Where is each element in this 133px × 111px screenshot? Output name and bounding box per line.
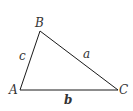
triangle-diagram: B A C c a b	[0, 0, 133, 111]
vertex-label-a: A	[8, 83, 18, 97]
triangle-abc	[20, 31, 118, 90]
side-label-a: a	[83, 47, 90, 61]
vertex-label-b: B	[34, 16, 44, 30]
vertex-label-c: C	[119, 83, 128, 97]
side-label-b: b	[64, 93, 72, 107]
side-label-c: c	[19, 49, 26, 63]
